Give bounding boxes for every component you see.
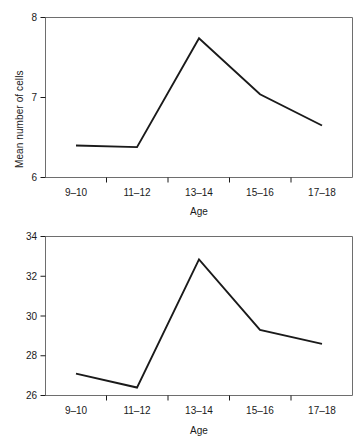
chart-mean-number-of-cells: Mean number of cells 8 7 6 (0, 0, 363, 222)
x-ticks-cells (107, 178, 292, 183)
x-ticks-transitions (107, 396, 292, 401)
y-tick-label: 34 (26, 231, 38, 242)
plot-area-transitions: 34 32 30 28 26 9–10 11–12 13–14 15–16 17… (0, 222, 363, 445)
x-tick-label: 11–12 (123, 405, 151, 416)
y-tick-label: 32 (26, 271, 38, 282)
y-tick-label: 7 (31, 92, 37, 103)
y-tick-label: 28 (26, 350, 38, 361)
y-tick-labels-transitions: 34 32 30 28 26 (26, 231, 38, 401)
y-tick-label: 26 (26, 390, 38, 401)
x-tick-label: 15–16 (246, 187, 274, 198)
y-tick-labels-cells: 8 7 6 (31, 12, 37, 183)
x-axis-title-transitions: Age (190, 425, 208, 436)
x-tick-label: 15–16 (246, 405, 274, 416)
y-axis-title-cells: Mean number of cells (14, 70, 25, 168)
x-tick-label: 17–18 (308, 405, 336, 416)
x-axis-title-cells: Age (190, 206, 208, 217)
x-tick-label: 9–10 (65, 187, 88, 198)
data-series-cells (76, 38, 322, 147)
x-tick-label: 9–10 (65, 405, 88, 416)
data-series-transitions (76, 259, 322, 387)
axis-frame-cells (46, 18, 353, 178)
y-tick-label: 6 (31, 172, 37, 183)
y-ticks-transitions (41, 237, 46, 396)
y-tick-label: 8 (31, 12, 37, 23)
x-tick-labels-transitions: 9–10 11–12 13–14 15–16 17–18 (65, 405, 336, 416)
y-ticks-cells (41, 18, 46, 178)
y-tick-label: 30 (26, 311, 38, 322)
x-tick-label: 13–14 (185, 405, 213, 416)
x-tick-labels-cells: 9–10 11–12 13–14 15–16 17–18 (65, 187, 336, 198)
chart-mean-number-of-transitions: Mean number of transitions 34 32 30 28 2… (0, 222, 363, 445)
x-tick-label: 13–14 (185, 187, 213, 198)
plot-area-cells: 8 7 6 9–10 11–12 13–14 15–16 17–18 Age (0, 0, 363, 222)
x-tick-label: 17–18 (308, 187, 336, 198)
x-tick-label: 11–12 (123, 187, 151, 198)
